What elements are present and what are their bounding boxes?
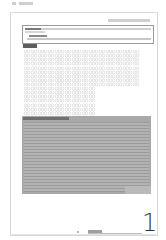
notice-line (25, 28, 151, 30)
notice-label (25, 28, 41, 30)
notice-line (27, 38, 151, 40)
character-grid: 〇〇〇〇〇〇〇〇〇〇〇〇〇〇〇〇〇〇〇〇〇〇〇〇〇〇〇〇〇〇〇〇〇〇 〇〇〇〇〇… (24, 50, 150, 87)
shaded-row-end (125, 186, 151, 194)
notice-box (22, 25, 154, 44)
section-heading (23, 44, 37, 48)
header-reference-text (108, 19, 150, 22)
page-edge (10, 234, 156, 235)
footer-mark (77, 231, 79, 233)
document-page: 〇〇〇〇〇〇〇〇〇〇〇〇〇〇〇〇〇〇〇〇〇〇〇〇〇〇〇〇〇〇〇〇〇〇 〇〇〇〇〇… (10, 12, 158, 236)
header-mark (12, 2, 40, 6)
notice-subheading (29, 35, 47, 37)
shaded-section (22, 116, 151, 194)
shaded-rows (24, 122, 149, 192)
page-number: 1 (142, 211, 157, 235)
shaded-section-heading (23, 117, 69, 120)
notice-line (25, 31, 45, 33)
